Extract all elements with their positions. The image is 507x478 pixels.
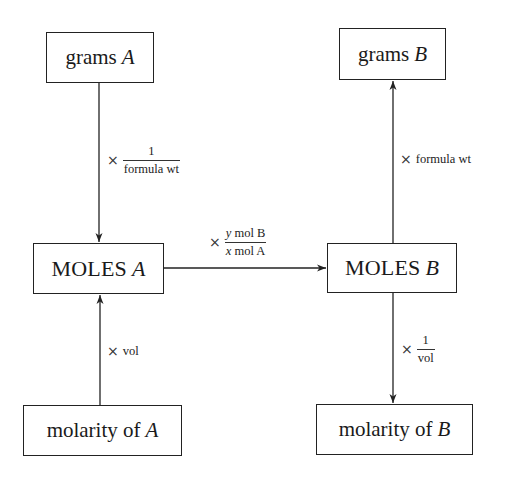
edge-label-moles-a-to-moles-b: × y mol B x mol A [209,227,266,257]
node-label: grams [65,45,116,70]
edge-label-grams-a-to-moles-a: × 1 formula wt [107,145,180,175]
fraction: y mol B x mol A [225,227,267,257]
node-variable: B [438,417,451,442]
factor-text: formula wt [416,152,471,167]
multiply-icon: × [107,152,119,168]
node-grams-b: gramsB [339,28,446,80]
fraction-denominator: vol [417,349,435,365]
node-variable: A [146,418,159,443]
node-molarity-b: molarity ofB [316,404,473,455]
node-grams-a: gramsA [46,32,154,83]
coefficient-x: x [226,244,232,258]
node-molarity-a: molarity ofA [23,405,182,456]
node-moles-a: MOLESA [33,243,164,294]
node-label: grams [358,42,409,67]
fraction-numerator: 1 [422,334,430,349]
fraction: 1 formula wt [123,145,180,175]
multiply-icon: × [401,341,413,357]
fraction-numerator: 1 [147,145,155,160]
multiply-icon: × [400,151,412,167]
node-variable: A [122,45,135,70]
node-variable: B [414,42,427,67]
multiply-icon: × [209,234,221,250]
edge-label-moles-b-to-molarity-b: × 1 vol [401,334,435,364]
node-label: MOLES [51,256,127,282]
unit-mol-b: mol B [234,226,265,240]
fraction: 1 vol [417,334,435,364]
node-label: molarity of [339,417,433,442]
node-variable: B [425,255,439,281]
edge-label-molarity-a-to-moles-a: × vol [107,343,139,359]
unit-mol-a: mol A [234,244,265,258]
fraction-denominator: formula wt [123,160,180,176]
coefficient-y: y [226,226,232,240]
multiply-icon: × [107,343,119,359]
fraction-numerator: y mol B [225,227,267,242]
node-moles-b: MOLESB [327,243,457,293]
fraction-denominator: x mol A [225,242,267,258]
node-label: molarity of [47,418,141,443]
edge-label-moles-b-to-grams-b: × formula wt [400,151,471,167]
factor-text: vol [123,344,139,359]
node-label: MOLES [345,255,421,281]
node-variable: A [132,256,146,282]
